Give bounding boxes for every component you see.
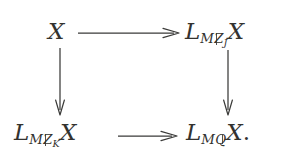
arrow-layer [0, 0, 292, 160]
diagram-canvas: X LMZJX LMZKX LMQX. [0, 0, 292, 160]
arrow-right [224, 50, 233, 115]
arrow-left [56, 48, 65, 115]
arrow-bottom [118, 131, 177, 140]
arrow-top [78, 28, 179, 37]
